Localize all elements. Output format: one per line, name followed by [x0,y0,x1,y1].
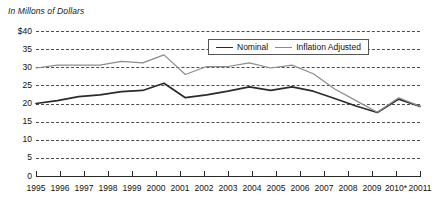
x-tick-label: 2009 [363,184,382,193]
x-tick-label: 2002 [195,184,214,193]
y-tick-label: 15 [4,117,32,126]
x-tick [300,171,301,177]
y-tick-label: 35 [4,45,32,54]
x-tick-label: 1997 [75,184,94,193]
x-tick [276,171,277,177]
y-tick-label: 30 [4,63,32,72]
legend-entry: Inflation Adjusted [275,43,361,52]
x-tick [228,171,229,177]
legend-label: Inflation Adjusted [296,43,361,52]
x-tick-label: 1996 [51,184,70,193]
y-tick-label: 0 [4,172,32,181]
x-tick-label: 2007 [315,184,334,193]
x-tick [252,171,253,177]
x-tick [420,171,421,177]
x-tick [180,171,181,177]
x-tick [60,171,61,177]
chart-legend: NominalInflation Adjusted [208,39,369,55]
x-tick-label: 2008 [339,184,358,193]
y-tick-label: 10 [4,135,32,144]
x-tick [348,171,349,177]
x-tick [372,171,373,177]
gridline [36,104,420,105]
x-tick-label: 1995 [27,184,46,193]
x-tick-label: 2001 [171,184,190,193]
x-tick-label: 2000 [147,184,166,193]
y-tick-label: 20 [4,99,32,108]
y-tick-label: 5 [4,153,32,162]
legend-label: Nominal [237,43,268,52]
x-tick [396,171,397,177]
x-tick [36,171,37,177]
legend-entry: Nominal [216,43,268,52]
x-tick-label: 1998 [99,184,118,193]
y-tick-label: $40 [4,27,32,36]
x-tick [204,171,205,177]
y-axis: $4035302520151050 [0,0,32,210]
x-tick [324,171,325,177]
x-tick-label: 2010* [385,184,407,193]
x-tick [156,171,157,177]
x-tick-label: 2004 [243,184,262,193]
x-tick-label: 20011 [408,184,431,193]
gridline [36,122,420,123]
x-tick-label: 2003 [219,184,238,193]
x-tick [84,171,85,177]
chart-container: In Millons of Dollars $4035302520151050 … [0,0,440,210]
legend-swatch-nominal [216,47,233,48]
gridline [36,67,420,68]
gridline [36,85,420,86]
x-tick [108,171,109,177]
gridline [36,140,420,141]
gridline [36,158,420,159]
x-tick-label: 1999 [123,184,142,193]
x-tick-label: 2006 [291,184,310,193]
gridline [36,31,420,32]
x-tick-label: 2005 [267,184,286,193]
y-tick-label: 25 [4,81,32,90]
legend-swatch-adjusted [275,47,292,48]
x-tick [132,171,133,177]
